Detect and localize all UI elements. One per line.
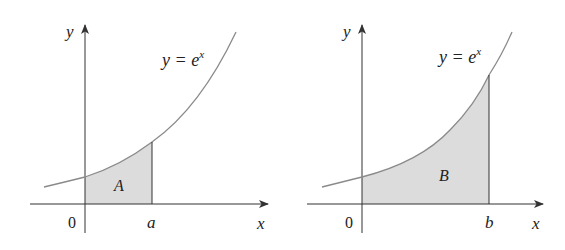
bound-label-b: b bbox=[485, 213, 494, 232]
origin-label: 0 bbox=[345, 214, 353, 231]
y-axis-label: y bbox=[341, 22, 351, 41]
curve-label: y = ex bbox=[437, 45, 481, 67]
y-axis-label: y bbox=[64, 22, 74, 41]
left-graph: y x 0 a A y = ex bbox=[30, 22, 268, 233]
region-b-fill bbox=[362, 75, 489, 204]
right-graph: y x 0 b B y = ex bbox=[307, 22, 543, 233]
x-axis-label: x bbox=[256, 214, 265, 233]
x-axis-label: x bbox=[531, 214, 540, 233]
region-label-a: A bbox=[113, 177, 124, 194]
curve-label: y = ex bbox=[160, 48, 204, 70]
origin-label: 0 bbox=[68, 214, 76, 231]
region-label-b: B bbox=[439, 167, 449, 184]
figure-canvas: y x 0 a A y = ex y x 0 b B y = ex bbox=[0, 0, 565, 250]
bound-label-a: a bbox=[147, 213, 156, 232]
